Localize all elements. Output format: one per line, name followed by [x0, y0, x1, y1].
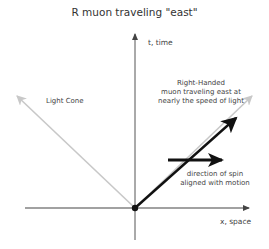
time-axis-label: t, time [148, 38, 173, 47]
muon-worldline-arrow [135, 118, 236, 208]
spacetime-diagram [0, 0, 269, 249]
muon-description-line: Right-Handed [146, 79, 256, 88]
spin-description: direction of spin aligned with motion [175, 170, 255, 188]
origin-point [132, 205, 138, 211]
muon-description: Right-Handed muon traveling east at near… [146, 79, 256, 106]
spin-description-line: aligned with motion [175, 179, 255, 188]
spin-description-line: direction of spin [175, 170, 255, 179]
space-axis-label: x, space [220, 217, 251, 226]
light-cone-label: Light Cone [46, 97, 84, 106]
light-cone-left-arrow [17, 96, 135, 208]
muon-description-line: muon traveling east at [146, 88, 256, 97]
muon-description-line: nearly the speed of light [146, 97, 256, 106]
